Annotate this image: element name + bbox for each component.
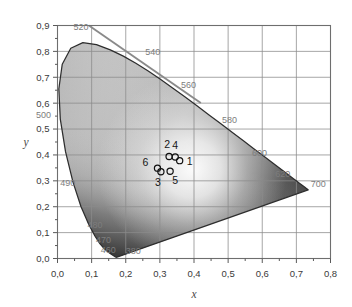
x-axis-title: x	[190, 288, 197, 300]
y-tick-label: 0,0	[36, 253, 49, 264]
wavelength-label: 700	[311, 179, 326, 189]
wavelength-label: 480	[88, 220, 103, 230]
data-point-label: 2	[164, 138, 170, 150]
wavelength-label: 560	[181, 80, 196, 90]
x-tick-label: 0,4	[187, 268, 200, 279]
data-point-label: 5	[172, 174, 178, 186]
y-tick-label: 0,5	[36, 123, 49, 134]
x-tick-label: 0,3	[153, 268, 166, 279]
x-tick-label: 0,2	[119, 268, 132, 279]
data-point-label: 3	[155, 176, 161, 188]
y-tick-label: 0,9	[36, 20, 49, 31]
x-tick-label: 0,6	[256, 268, 269, 279]
x-tick-label: 0,7	[290, 268, 303, 279]
data-point-label: 6	[143, 156, 149, 168]
wavelength-label: 580	[222, 115, 237, 125]
y-tick-label: 0,2	[36, 201, 49, 212]
y-tick-label: 0,6	[36, 98, 49, 109]
wavelength-label: 540	[145, 47, 160, 57]
wavelength-label: 600	[252, 148, 267, 158]
y-axis-title: y	[22, 136, 29, 149]
y-tick-label: 0,3	[36, 175, 49, 186]
x-tick-label: 0,5	[222, 268, 235, 279]
wavelength-label: 620	[275, 169, 290, 179]
y-tick-label: 0,8	[36, 46, 49, 57]
data-point-label: 1	[187, 155, 193, 167]
wavelength-label: 470	[96, 235, 111, 245]
y-tick-label: 0,1	[36, 227, 49, 238]
data-point-label: 4	[172, 139, 178, 151]
y-tick-label: 0,4	[36, 149, 49, 160]
wavelength-label: 460	[101, 245, 116, 255]
cie-chromaticity-figure: 0,00,10,20,30,40,50,60,70,80,00,10,20,30…	[0, 0, 352, 307]
wavelength-label: 490	[60, 178, 75, 188]
wavelength-label: 520	[74, 22, 89, 32]
y-tick-label: 0,7	[36, 72, 49, 83]
wavelength-label: 380	[126, 246, 141, 256]
x-tick-label: 0,1	[85, 268, 98, 279]
x-tick-label: 0,8	[324, 268, 337, 279]
x-tick-label: 0,0	[51, 268, 64, 279]
chromaticity-plot: 0,00,10,20,30,40,50,60,70,80,00,10,20,30…	[0, 0, 352, 307]
wavelength-label: 500	[36, 110, 51, 120]
